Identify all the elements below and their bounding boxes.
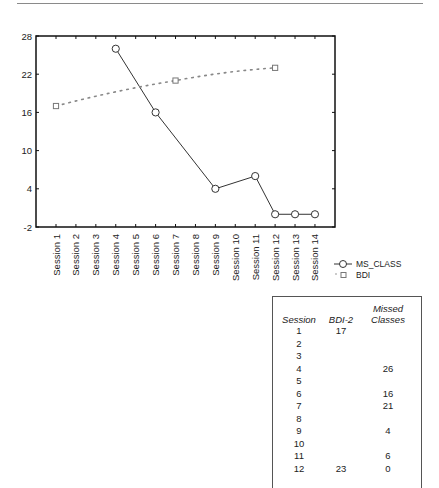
legend: MS_CLASS BDI	[334, 258, 401, 280]
table-row: 616	[279, 388, 413, 401]
cell-session: 10	[279, 438, 319, 451]
cell-session: 12	[279, 463, 319, 476]
legend-label: MS_CLASS	[356, 259, 401, 269]
table-row: 426	[279, 363, 413, 376]
circle-line-icon	[334, 259, 352, 269]
bdi-marker	[273, 65, 278, 70]
line-chart: -2410162228Session 1Session 2Session 3Se…	[0, 0, 439, 300]
cell-session: 7	[279, 400, 319, 413]
data-table: Session BDI-2 MissedClasses 117234265616…	[272, 296, 422, 488]
ms-class-marker	[291, 211, 298, 218]
bdi-marker	[53, 103, 58, 108]
cell-missed-classes: 4	[363, 425, 413, 438]
x-tick-label: Session 8	[190, 234, 201, 276]
cell-bdi: 23	[319, 463, 363, 476]
table-row: 12230	[279, 463, 413, 476]
table-row: 8	[279, 413, 413, 426]
cell-missed-classes	[363, 438, 413, 451]
table-row: 117	[279, 325, 413, 338]
table-row: 116	[279, 450, 413, 463]
column-header-missed-classes: MissedClasses	[363, 303, 413, 325]
table-row: 5	[279, 375, 413, 388]
cell-session: 3	[279, 350, 319, 363]
x-tick-label: Session 2	[70, 234, 81, 276]
ms-class-marker	[212, 185, 219, 192]
cell-missed-classes	[363, 413, 413, 426]
y-tick-label: 16	[21, 107, 32, 118]
x-tick-label: Session 1	[51, 234, 62, 276]
bdi-line	[56, 68, 275, 106]
cell-session: 6	[279, 388, 319, 401]
table-row: 10	[279, 438, 413, 451]
cell-bdi	[319, 388, 363, 401]
cell-missed-classes	[363, 350, 413, 363]
cell-missed-classes: 0	[363, 463, 413, 476]
x-tick-label: Session 6	[150, 234, 161, 276]
cell-bdi: 17	[319, 325, 363, 338]
legend-item-ms-class: MS_CLASS	[334, 258, 401, 269]
x-tick-label: Session 7	[170, 234, 181, 276]
cell-missed-classes: 16	[363, 388, 413, 401]
x-tick-label: Session 4	[110, 234, 121, 276]
cell-session: 4	[279, 363, 319, 376]
ms-class-marker	[311, 211, 318, 218]
cell-missed-classes	[363, 375, 413, 388]
y-tick-label: 22	[21, 69, 32, 80]
cell-session: 11	[279, 450, 319, 463]
bdi-marker	[173, 78, 178, 83]
x-tick-label: Session 5	[130, 234, 141, 276]
table-row: 2	[279, 338, 413, 351]
cell-session: 5	[279, 375, 319, 388]
cell-bdi	[319, 425, 363, 438]
table-row: 721	[279, 400, 413, 413]
cell-bdi	[319, 413, 363, 426]
cell-missed-classes	[363, 325, 413, 338]
x-tick-label: Session 3	[90, 234, 101, 276]
cell-bdi	[319, 450, 363, 463]
y-tick-label: 28	[21, 31, 32, 42]
legend-label: BDI	[356, 270, 370, 280]
column-header-bdi: BDI-2	[319, 303, 363, 325]
cell-bdi	[319, 375, 363, 388]
x-tick-label: Session 9	[210, 234, 221, 276]
cell-bdi	[319, 438, 363, 451]
cell-missed-classes: 21	[363, 400, 413, 413]
y-tick-label: 4	[27, 183, 32, 194]
cell-session: 1	[279, 325, 319, 338]
cell-bdi	[319, 400, 363, 413]
y-tick-label: -2	[24, 222, 32, 233]
table-row: 94	[279, 425, 413, 438]
x-tick-label: Session 13	[290, 234, 301, 281]
table-row: 3	[279, 350, 413, 363]
ms-class-marker	[272, 211, 279, 218]
y-tick-label: 10	[21, 145, 32, 156]
cell-missed-classes	[363, 338, 413, 351]
x-tick-label: Session 11	[250, 234, 261, 280]
plot-frame	[36, 36, 335, 227]
x-tick-label: Session 10	[230, 234, 241, 281]
sessions-table: Session BDI-2 MissedClasses 117234265616…	[279, 303, 413, 475]
ms-class-marker	[152, 109, 159, 116]
square-dotted-icon	[334, 270, 352, 280]
cell-session: 2	[279, 338, 319, 351]
cell-session: 8	[279, 413, 319, 426]
cell-missed-classes: 6	[363, 450, 413, 463]
cell-session: 9	[279, 425, 319, 438]
x-tick-label: Session 14	[309, 234, 320, 281]
x-tick-label: Session 12	[270, 234, 281, 281]
ms-class-marker	[252, 172, 259, 179]
cell-missed-classes: 26	[363, 363, 413, 376]
column-header-session: Session	[279, 303, 319, 325]
ms-class-marker	[112, 45, 119, 52]
cell-bdi	[319, 338, 363, 351]
cell-bdi	[319, 350, 363, 363]
cell-bdi	[319, 363, 363, 376]
legend-item-bdi: BDI	[334, 269, 401, 280]
